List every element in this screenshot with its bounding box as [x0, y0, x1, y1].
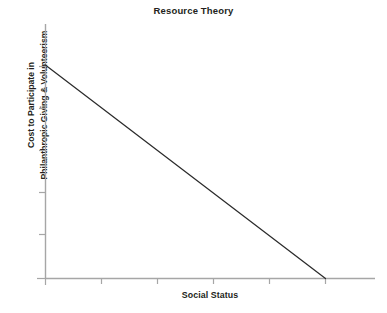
x-axis-ticks [46, 279, 326, 286]
x-axis-title: Social Status [45, 290, 375, 300]
caption-remnant [4, 303, 94, 311]
plot-area [0, 0, 387, 313]
chart-figure: Resource Theory Cost to Participate in P… [0, 0, 387, 313]
data-line-series-1 [45, 65, 326, 279]
y-axis-ticks [37, 67, 46, 279]
